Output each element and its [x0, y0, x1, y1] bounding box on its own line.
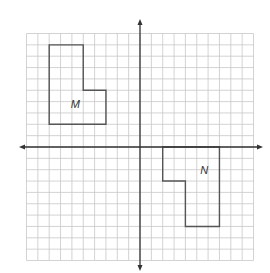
coordinate-plane: M N [0, 0, 270, 273]
y-axis-up-arrow-icon [138, 19, 143, 25]
axes [19, 19, 263, 271]
shape-label-m: M [71, 98, 81, 110]
shape-n [163, 147, 220, 226]
shape-m [49, 45, 106, 124]
shape-label-n: N [200, 164, 208, 176]
x-axis-left-arrow-icon [19, 145, 25, 150]
y-axis-down-arrow-icon [138, 265, 143, 271]
x-axis-right-arrow-icon [257, 145, 263, 150]
